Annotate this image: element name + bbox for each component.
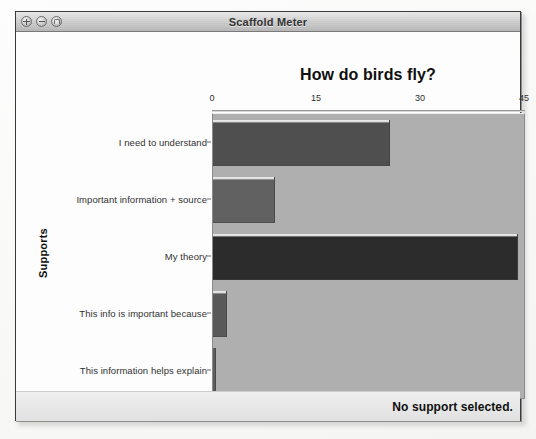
bar-highlight [213, 120, 389, 123]
bar[interactable] [213, 234, 518, 280]
bar-highlight [213, 177, 274, 180]
x-tick-label: 30 [415, 93, 425, 103]
y-axis-label: I need to understand [36, 136, 207, 147]
y-axis-tick [207, 256, 211, 257]
window-content: How do birds fly? 0153045 Supports I nee… [16, 32, 520, 421]
y-axis-tick [207, 198, 211, 199]
bar[interactable] [213, 177, 275, 223]
x-tick-label: 0 [209, 93, 214, 103]
x-tick-label: 15 [311, 93, 321, 103]
y-axis-tick [207, 370, 211, 371]
y-axis-label: Important information + source [36, 193, 207, 204]
y-axis-category-labels: I need to understandImportant informatio… [36, 113, 207, 399]
bar[interactable] [213, 348, 216, 394]
y-axis-tick [207, 313, 211, 314]
x-axis-ticks: 0153045 [197, 93, 536, 107]
y-axis-label: This info is important because [36, 308, 207, 319]
y-axis-tick [207, 141, 211, 142]
bar[interactable] [213, 120, 390, 166]
bar-chart-plot-area[interactable] [212, 113, 525, 399]
y-axis-label: This information helps explain [36, 365, 207, 376]
x-tick-label: 45 [519, 93, 529, 103]
y-axis-label: My theory [36, 251, 207, 262]
window-titlebar[interactable]: Scaffold Meter [16, 12, 520, 32]
chart-title: How do birds fly? [212, 66, 524, 84]
bar-highlight [213, 234, 517, 237]
scaffold-meter-window: Scaffold Meter How do birds fly? 0153045… [15, 11, 521, 421]
bar-highlight [213, 291, 226, 294]
plot-top-rule [212, 110, 525, 112]
status-text: No support selected. [392, 400, 513, 414]
status-bar: No support selected. [16, 391, 520, 421]
window-title: Scaffold Meter [16, 16, 520, 28]
bar[interactable] [213, 291, 227, 337]
